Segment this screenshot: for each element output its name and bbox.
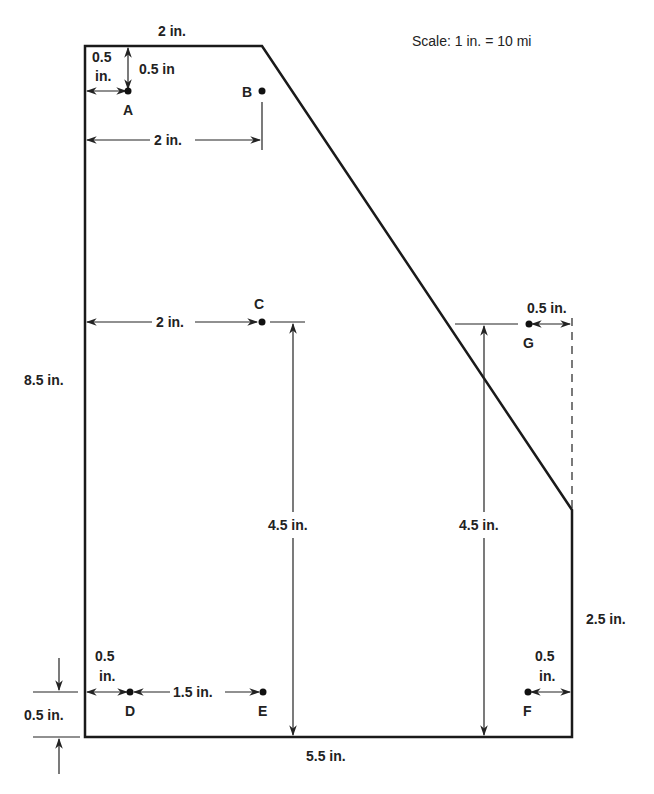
point-g-marker bbox=[526, 321, 533, 328]
f-right-dim-label: 0.5 bbox=[535, 648, 555, 664]
g-height-label: 4.5 in. bbox=[459, 517, 499, 533]
point-g-label: G bbox=[523, 335, 534, 351]
point-f-label: F bbox=[523, 703, 532, 719]
right-height-label: 2.5 in. bbox=[586, 611, 626, 627]
a-left-dim-unit: in. bbox=[95, 68, 111, 84]
point-e-marker bbox=[260, 689, 267, 696]
d-bottom-dim-label: 0.5 in. bbox=[24, 707, 64, 723]
region-outline bbox=[85, 46, 572, 737]
point-b-marker bbox=[259, 88, 266, 95]
a-left-dim-label: 0.5 bbox=[92, 49, 112, 65]
point-c-marker bbox=[259, 319, 266, 326]
region-diagram: 2 in. Scale: 1 in. = 10 mi 0.5 in. 0.5 i… bbox=[0, 0, 654, 794]
d-left-dim-unit: in. bbox=[99, 668, 115, 684]
point-e-label: E bbox=[258, 703, 267, 719]
a-top-dim-label: 0.5 in bbox=[139, 61, 175, 77]
point-d-marker bbox=[127, 689, 134, 696]
point-b-label: B bbox=[242, 84, 252, 100]
top-width-label: 2 in. bbox=[158, 23, 186, 39]
point-d-label: D bbox=[125, 703, 135, 719]
d-to-e-label: 1.5 in. bbox=[173, 684, 213, 700]
c-height-label: 4.5 in. bbox=[268, 517, 308, 533]
point-a-marker bbox=[125, 88, 132, 95]
point-f-marker bbox=[525, 689, 532, 696]
point-c-label: C bbox=[254, 296, 264, 312]
bottom-width-label: 5.5 in. bbox=[306, 748, 346, 764]
c-left-dim-label: 2 in. bbox=[156, 314, 184, 330]
scale-label: Scale: 1 in. = 10 mi bbox=[412, 33, 531, 49]
f-right-dim-unit: in. bbox=[539, 668, 555, 684]
d-left-dim-label: 0.5 bbox=[95, 648, 115, 664]
point-a-label: A bbox=[123, 102, 133, 118]
g-right-dim-label: 0.5 in. bbox=[527, 300, 567, 316]
left-height-label: 8.5 in. bbox=[24, 372, 64, 388]
b-left-dim-label: 2 in. bbox=[154, 132, 182, 148]
